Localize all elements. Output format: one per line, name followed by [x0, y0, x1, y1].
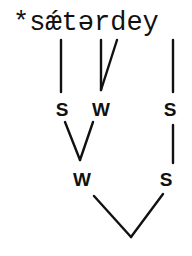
edge-right-to-W — [101, 40, 117, 90]
node-l2-right: S — [160, 169, 173, 190]
metrical-tree-diagram: *sǽtərdey S W S W S — [0, 0, 192, 256]
node-l1-right: S — [164, 99, 177, 120]
edge-S-to-W2 — [65, 122, 80, 160]
node-l2-left: W — [73, 169, 91, 190]
node-l1-mid: W — [92, 99, 110, 120]
edge-W-to-W2 — [80, 122, 93, 160]
node-l1-left: S — [56, 99, 69, 120]
edge-S2-to-root — [131, 194, 163, 237]
edge-W2-to-root — [94, 196, 131, 237]
word-transcription: *sǽtərdey — [13, 8, 159, 38]
